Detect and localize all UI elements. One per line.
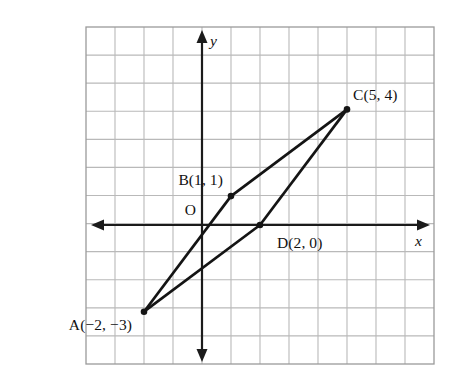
grid-lines [86, 27, 434, 364]
point-label-c: C(5, 4) [353, 88, 398, 104]
y-axis-arrow-down [197, 349, 208, 362]
x-axis-arrow-left [91, 220, 104, 231]
diagram-canvas: A(−2, −3) B(1, 1) C(5, 4) D(2, 0) O x y [0, 0, 460, 381]
vertex-dot-a [141, 308, 148, 315]
point-label-a: A(−2, −3) [69, 317, 132, 333]
y-axis-arrow-up [197, 30, 208, 43]
origin-label: O [185, 202, 196, 218]
point-label-d: D(2, 0) [277, 235, 322, 251]
vertex-dot-d [257, 222, 264, 229]
vertex-dot-b [228, 193, 235, 200]
vertex-dots [141, 106, 351, 315]
x-axis-label: x [415, 233, 422, 249]
x-axis-arrow-right [417, 220, 430, 231]
y-axis-label: y [210, 33, 217, 49]
point-label-b: B(1, 1) [178, 172, 223, 188]
vertex-dot-c [344, 106, 351, 113]
